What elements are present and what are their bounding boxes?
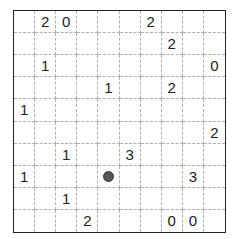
grid-cell-r7-c2[interactable]: [56, 166, 77, 188]
grid-cell-r0-c3[interactable]: [77, 11, 98, 33]
grid-cell-r0-c1[interactable]: 2: [35, 11, 56, 33]
grid-cell-r8-c5[interactable]: [120, 188, 141, 210]
grid-cell-r5-c1[interactable]: [35, 122, 56, 144]
grid-cell-r4-c4[interactable]: [98, 99, 119, 121]
grid-cell-r5-c7[interactable]: [162, 122, 183, 144]
grid-cell-r0-c6[interactable]: 2: [141, 11, 162, 33]
grid-cell-r1-c2[interactable]: [56, 33, 77, 55]
grid-cell-r0-c8[interactable]: [183, 11, 204, 33]
grid-cell-r3-c2[interactable]: [56, 77, 77, 99]
grid-cell-r8-c6[interactable]: [141, 188, 162, 210]
grid-cell-r9-c1[interactable]: [35, 210, 56, 232]
grid-cell-r6-c4[interactable]: [98, 144, 119, 166]
grid-cell-r8-c3[interactable]: [77, 188, 98, 210]
grid-cell-r9-c9[interactable]: [204, 210, 225, 232]
grid-cell-r4-c7[interactable]: [162, 99, 183, 121]
grid-cell-r0-c7[interactable]: [162, 11, 183, 33]
grid-cell-r7-c4[interactable]: [98, 166, 119, 188]
grid-cell-r7-c5[interactable]: [120, 166, 141, 188]
grid-cell-r1-c7[interactable]: 2: [162, 33, 183, 55]
grid-cell-r2-c3[interactable]: [77, 55, 98, 77]
grid-cell-r6-c6[interactable]: [141, 144, 162, 166]
grid-cell-r4-c0[interactable]: 1: [14, 99, 35, 121]
grid-cell-r6-c8[interactable]: [183, 144, 204, 166]
grid-cell-r0-c4[interactable]: [98, 11, 119, 33]
grid-cell-r3-c9[interactable]: [204, 77, 225, 99]
grid-cell-r1-c3[interactable]: [77, 33, 98, 55]
grid-cell-r3-c8[interactable]: [183, 77, 204, 99]
grid-cell-r6-c5[interactable]: 3: [120, 144, 141, 166]
grid-cell-r4-c9[interactable]: [204, 99, 225, 121]
grid-cell-r4-c6[interactable]: [141, 99, 162, 121]
grid-cell-r3-c7[interactable]: 2: [162, 77, 183, 99]
grid-cell-r5-c5[interactable]: [120, 122, 141, 144]
grid-cell-r4-c8[interactable]: [183, 99, 204, 121]
grid-cell-r5-c0[interactable]: [14, 122, 35, 144]
grid-cell-r1-c1[interactable]: [35, 33, 56, 55]
grid-cell-r6-c1[interactable]: [35, 144, 56, 166]
grid-cell-r8-c1[interactable]: [35, 188, 56, 210]
grid-cell-r2-c4[interactable]: [98, 55, 119, 77]
grid-cell-r1-c0[interactable]: [14, 33, 35, 55]
grid-cell-r6-c3[interactable]: [77, 144, 98, 166]
grid-cell-r0-c0[interactable]: [14, 11, 35, 33]
grid-cell-r9-c0[interactable]: [14, 210, 35, 232]
grid-cell-r7-c9[interactable]: [204, 166, 225, 188]
grid-cell-r6-c9[interactable]: [204, 144, 225, 166]
grid-cell-r2-c9[interactable]: 0: [204, 55, 225, 77]
grid-cell-r3-c0[interactable]: [14, 77, 35, 99]
grid-cell-r7-c6[interactable]: [141, 166, 162, 188]
grid-cell-r9-c5[interactable]: [120, 210, 141, 232]
grid-cell-r8-c2[interactable]: 1: [56, 188, 77, 210]
grid-cell-r9-c3[interactable]: 2: [77, 210, 98, 232]
grid-cell-r1-c5[interactable]: [120, 33, 141, 55]
grid-cell-r8-c4[interactable]: [98, 188, 119, 210]
grid-cell-r2-c1[interactable]: 1: [35, 55, 56, 77]
grid-cell-r4-c2[interactable]: [56, 99, 77, 121]
grid-cell-r0-c2[interactable]: 0: [56, 11, 77, 33]
grid-cell-r7-c0[interactable]: 1: [14, 166, 35, 188]
grid-cell-r3-c5[interactable]: [120, 77, 141, 99]
grid-cell-r7-c7[interactable]: [162, 166, 183, 188]
grid-cell-r4-c3[interactable]: [77, 99, 98, 121]
grid-cell-r4-c5[interactable]: [120, 99, 141, 121]
grid-cell-r6-c2[interactable]: 1: [56, 144, 77, 166]
grid-cell-r0-c9[interactable]: [204, 11, 225, 33]
grid-cell-r3-c4[interactable]: 1: [98, 77, 119, 99]
grid-cell-r9-c4[interactable]: [98, 210, 119, 232]
grid-cell-r9-c7[interactable]: 0: [162, 210, 183, 232]
grid-cell-r2-c8[interactable]: [183, 55, 204, 77]
grid-cell-r5-c9[interactable]: 2: [204, 122, 225, 144]
grid-cell-r7-c3[interactable]: [77, 166, 98, 188]
grid-cell-r8-c0[interactable]: [14, 188, 35, 210]
grid-cell-r2-c6[interactable]: [141, 55, 162, 77]
grid-cell-r9-c6[interactable]: [141, 210, 162, 232]
grid-cell-r7-c8[interactable]: 3: [183, 166, 204, 188]
grid-cell-r1-c6[interactable]: [141, 33, 162, 55]
grid-cell-r8-c9[interactable]: [204, 188, 225, 210]
grid-cell-r7-c1[interactable]: [35, 166, 56, 188]
grid-cell-r2-c2[interactable]: [56, 55, 77, 77]
grid-cell-r2-c5[interactable]: [120, 55, 141, 77]
grid-cell-r8-c8[interactable]: [183, 188, 204, 210]
grid-cell-r6-c0[interactable]: [14, 144, 35, 166]
grid-cell-r5-c3[interactable]: [77, 122, 98, 144]
grid-cell-r4-c1[interactable]: [35, 99, 56, 121]
grid-cell-r8-c7[interactable]: [162, 188, 183, 210]
grid-cell-r1-c4[interactable]: [98, 33, 119, 55]
grid-cell-r3-c6[interactable]: [141, 77, 162, 99]
grid-cell-r9-c8[interactable]: 0: [183, 210, 204, 232]
grid-cell-r5-c6[interactable]: [141, 122, 162, 144]
grid-cell-r5-c8[interactable]: [183, 122, 204, 144]
grid-cell-r6-c7[interactable]: [162, 144, 183, 166]
grid-cell-r5-c4[interactable]: [98, 122, 119, 144]
grid-cell-r3-c3[interactable]: [77, 77, 98, 99]
grid-cell-r1-c9[interactable]: [204, 33, 225, 55]
grid-cell-r5-c2[interactable]: [56, 122, 77, 144]
grid-cell-r9-c2[interactable]: [56, 210, 77, 232]
grid-cell-r1-c8[interactable]: [183, 33, 204, 55]
grid-cell-r3-c1[interactable]: [35, 77, 56, 99]
grid-cell-r2-c0[interactable]: [14, 55, 35, 77]
grid-cell-r0-c5[interactable]: [120, 11, 141, 33]
grid-cell-r2-c7[interactable]: [162, 55, 183, 77]
